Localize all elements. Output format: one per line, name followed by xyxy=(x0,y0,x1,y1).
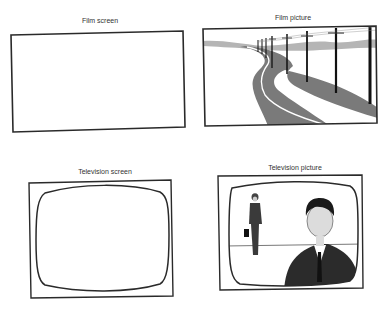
television-picture-frame xyxy=(218,175,365,290)
film-picture-frame xyxy=(200,20,380,130)
television-screen-frame xyxy=(29,180,173,298)
film-screen-frame xyxy=(11,31,185,132)
diagram-canvas xyxy=(0,0,384,310)
